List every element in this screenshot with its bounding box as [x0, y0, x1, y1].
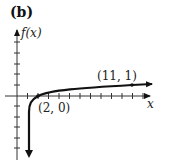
- curve-down-arrow: [25, 150, 33, 158]
- chart: f(x) x (2, 0) (11, 1): [0, 0, 178, 166]
- point-11-1: [130, 83, 134, 87]
- y-axis-label: f(x): [20, 26, 42, 40]
- point-label-2-0: (2, 0): [38, 101, 70, 115]
- x-axis-label: x: [147, 97, 154, 111]
- point-label-11-1: (11, 1): [97, 69, 137, 83]
- point-2-0: [36, 94, 40, 98]
